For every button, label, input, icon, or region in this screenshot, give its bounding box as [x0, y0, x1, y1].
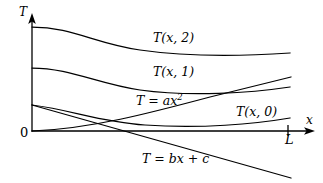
- curve-label-parabola-exponent: 2: [177, 92, 182, 102]
- curve-label-parabola-base: T = ax: [136, 93, 177, 108]
- curve-label-t-x-2: T(x, 2): [153, 32, 194, 45]
- temperature-profile-figure: T x 0 L T(x, 2) T(x, 1) T(x, 0) T = ax2 …: [0, 0, 323, 183]
- y-axis-label: T: [19, 6, 27, 18]
- curve-label-t-x-0: T(x, 0): [236, 106, 277, 119]
- curve-label-linear: T = bx + c: [142, 153, 209, 166]
- x-axis-tick-label-L: L: [285, 133, 294, 146]
- origin-label: 0: [20, 126, 28, 139]
- x-axis-label: x: [306, 114, 313, 126]
- curve-label-t-x-1: T(x, 1): [153, 66, 194, 79]
- curve-label-parabola: T = ax2: [136, 95, 183, 108]
